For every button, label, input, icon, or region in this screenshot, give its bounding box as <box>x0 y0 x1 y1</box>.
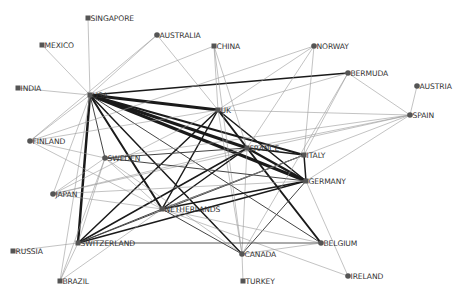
node-label: BRAZIL <box>63 277 90 286</box>
node-switzerland[interactable]: SWITZERLAND <box>76 239 136 248</box>
node-label: BERMUDA <box>351 69 390 78</box>
node-russia[interactable]: RUSSIA <box>11 247 44 256</box>
node-label: AUSTRIA <box>420 82 453 91</box>
node-label: FINLAND <box>33 137 66 146</box>
node-label: CANADA <box>245 250 278 259</box>
node-label: INDIA <box>21 84 43 93</box>
node-label: UK <box>221 106 232 115</box>
node-finland[interactable]: FINLAND <box>27 137 65 146</box>
node-canada[interactable]: CANADA <box>239 250 277 259</box>
node-label: NETHERLANDS <box>165 205 221 214</box>
node-mexico[interactable]: MEXICO <box>40 41 75 50</box>
node-belgium[interactable]: BELGIUM <box>318 239 357 248</box>
node-label: MEXICO <box>45 41 75 50</box>
node-label: USA <box>93 91 109 100</box>
node-label: BELGIUM <box>324 239 358 248</box>
node-germany[interactable]: GERMANY <box>304 177 347 186</box>
node-turkey[interactable]: TURKEY <box>241 277 276 286</box>
node-label: FRANCE <box>250 144 280 153</box>
node-netherlands[interactable]: NETHERLANDS <box>160 205 221 214</box>
node-australia[interactable]: AUSTRALIA <box>154 31 201 40</box>
node-label: AUSTRALIA <box>160 31 202 40</box>
node-singapore[interactable]: SINGAPORE <box>86 14 135 23</box>
node-label: RUSSIA <box>16 247 44 256</box>
node-label: TURKEY <box>245 277 276 286</box>
node-austria[interactable]: AUSTRIA <box>414 82 452 91</box>
node-label: SPAIN <box>413 111 435 120</box>
node-label: SWITZERLAND <box>81 239 136 248</box>
node-label: NORWAY <box>317 42 350 51</box>
network-diagram: SINGAPOREMEXICOAUSTRALIACHINANORWAYBERMU… <box>0 0 471 301</box>
node-brazil[interactable]: BRAZIL <box>58 277 90 286</box>
node-label: GERMANY <box>309 177 347 186</box>
node-norway[interactable]: NORWAY <box>311 42 349 51</box>
node-china[interactable]: CHINA <box>212 42 242 51</box>
node-label: CHINA <box>217 42 242 51</box>
node-sweden[interactable]: SWEDEN <box>102 154 140 163</box>
node-label: JAPAN <box>55 190 78 199</box>
node-label: IRELAND <box>351 272 384 281</box>
node-label: ITALY <box>307 151 326 160</box>
node-ireland[interactable]: IRELAND <box>345 272 383 281</box>
node-label: SINGAPORE <box>91 14 135 23</box>
node-france[interactable]: FRANCE <box>245 144 280 153</box>
node-label: SWEDEN <box>108 154 141 163</box>
node-bermuda[interactable]: BERMUDA <box>345 69 389 78</box>
